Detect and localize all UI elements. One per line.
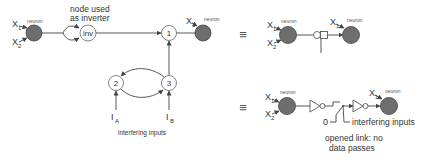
rb-inverter2-triangle [353,100,363,112]
svg-text:B: B [170,118,174,124]
inverter-fork-bottom [63,33,79,40]
interfering-input-b: I B [166,112,174,124]
svg-text:I: I [111,112,114,122]
equivalent-symbol-bottom: ≡ [239,100,247,115]
input-x2: X 2 [12,37,22,49]
rb-opened-link-caption-line2: data passes [329,143,375,153]
input-neuron-label: neuron [27,18,43,24]
rb-input-x1: X 1 [265,92,275,104]
rt-gate-circle [314,32,321,39]
rb-inverter1-triangle [310,100,320,112]
rb-zero-line [330,115,336,122]
rt-output-neuron [343,27,360,44]
rb-input-x2: X 2 [265,109,275,121]
rt-gate-square [321,32,328,39]
inverter-caption-line2: as inverter [70,13,110,23]
rb-input-neuron-label: neuron [280,89,296,95]
rb-output-neuron [381,98,398,115]
inverter-node-label: inv [83,29,93,38]
rb-input-neuron [279,98,296,115]
svg-text:2: 2 [273,44,277,50]
rb-interfering-control-line [343,106,350,122]
svg-text:I: I [166,112,169,122]
interfering-inputs-caption: interfering inputs [118,129,167,137]
input-x1: X 1 [12,19,22,31]
rt-input-neuron [280,27,297,44]
rt-input-x2-arrow [274,40,281,43]
equivalent-symbol-top: ≡ [239,27,247,42]
input-neuron [26,25,42,41]
right-bottom-diagram: neuron X 1 X 2 0 interfering inputs [265,88,415,153]
node-3-label: 3 [167,79,172,88]
svg-text:A: A [115,118,119,124]
rt-output-input-x1: X 1 [330,17,340,29]
rb-output-input-x1: X 1 [369,88,379,100]
node-1-label: 1 [167,29,172,38]
inverter-fork-top [63,26,79,33]
input-x2-arrow [19,38,27,42]
rb-inverter1-bubble [320,104,325,109]
rb-zero-label: 0 [323,117,328,127]
svg-text:2: 2 [271,115,275,121]
node-2-label: 2 [114,79,119,88]
output-neuron-label: neuron [204,16,220,22]
rb-input-x2-arrow [272,111,279,114]
rt-input-neuron-label: neuron [281,18,297,24]
node3-to-node2-arc [121,69,164,77]
rb-inverter2-bubble [363,104,368,109]
diagram-canvas: neuron X 1 X 2 node used as inverter inv… [0,0,429,163]
svg-text:1: 1 [271,98,275,104]
rb-link-to-switch [325,102,340,106]
rt-output-neuron-label: neuron [347,17,363,23]
svg-text:2: 2 [18,43,22,49]
right-top-diagram: neuron X 1 X 2 neuron X 1 [267,17,363,53]
rb-output-neuron-label: neuron [385,88,401,94]
node2-to-node3-arc [121,89,163,97]
rb-switch-arm [336,106,343,115]
interfering-input-a: I A [111,112,119,124]
rt-input-x1: X 1 [267,20,277,32]
svg-text:1: 1 [273,26,277,32]
rb-interfering-inputs-caption: interfering inputs [352,117,415,127]
output-neuron [195,25,211,41]
rt-input-x2: X 2 [267,38,277,50]
output-input-x1: X 1 [186,16,196,28]
rb-opened-link-caption-line1: opened link: no [325,133,383,143]
left-diagram: neuron X 1 X 2 node used as inverter inv… [12,4,220,137]
